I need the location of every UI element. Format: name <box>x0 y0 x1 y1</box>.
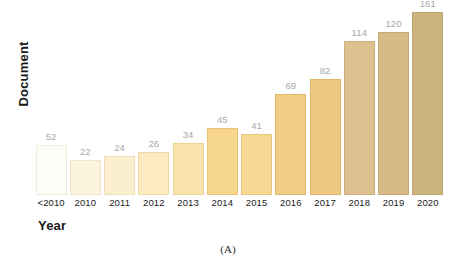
x-tick-label: 2013 <box>171 197 205 208</box>
bar-value-label: 34 <box>173 129 204 140</box>
bar <box>344 41 375 195</box>
x-tick-label: 2020 <box>411 197 445 208</box>
bar-value-label: 114 <box>344 27 375 38</box>
x-tick-label: 2019 <box>377 197 411 208</box>
bar <box>241 134 272 195</box>
bar-group: 26 <box>138 12 169 195</box>
bar-value-label: 161 <box>412 0 443 9</box>
x-tick-label: 2012 <box>137 197 171 208</box>
bar-value-label: 52 <box>36 131 67 142</box>
bar-group: 45 <box>207 12 238 195</box>
bar-group: 69 <box>275 12 306 195</box>
bar <box>310 79 341 195</box>
bar-value-label: 45 <box>207 114 238 125</box>
bar-group: 24 <box>104 12 135 195</box>
x-tick-label: 2015 <box>240 197 274 208</box>
x-tick-label: 2010 <box>68 197 102 208</box>
bar <box>412 12 443 195</box>
bar-value-label: 120 <box>378 18 409 29</box>
bar-chart-figure: Document 522224263445416982114120161 <20… <box>0 0 456 270</box>
bar <box>207 128 238 195</box>
bar-group: 34 <box>173 12 204 195</box>
bar-group: 52 <box>36 12 67 195</box>
figure-caption: (A) <box>0 243 456 255</box>
x-tick-label: 2018 <box>342 197 376 208</box>
bar <box>70 160 101 195</box>
bar-value-label: 26 <box>138 138 169 149</box>
x-tick-label: <2010 <box>34 197 68 208</box>
bar-group: 120 <box>378 12 409 195</box>
bar-value-label: 41 <box>241 120 272 131</box>
y-axis-label: Document <box>16 24 36 124</box>
bar-value-label: 22 <box>70 146 101 157</box>
bar-group: 22 <box>70 12 101 195</box>
bar-group: 82 <box>310 12 341 195</box>
bar-group: 161 <box>412 12 443 195</box>
bar <box>173 143 204 195</box>
bar <box>104 156 135 195</box>
x-axis-tick-labels: <201020102011201220132014201520162017201… <box>34 197 445 211</box>
x-tick-label: 2014 <box>205 197 239 208</box>
bar-value-label: 24 <box>104 142 135 153</box>
bar <box>36 145 67 195</box>
bar-value-label: 69 <box>275 80 306 91</box>
bar-group: 114 <box>344 12 375 195</box>
bar <box>378 32 409 195</box>
bar-group: 41 <box>241 12 272 195</box>
x-axis-label: Year <box>38 218 66 233</box>
bar <box>275 94 306 195</box>
plot-area: 522224263445416982114120161 <box>34 12 445 195</box>
x-tick-label: 2011 <box>103 197 137 208</box>
bar <box>138 152 169 195</box>
bar-value-label: 82 <box>310 65 341 76</box>
x-tick-label: 2017 <box>308 197 342 208</box>
x-tick-label: 2016 <box>274 197 308 208</box>
